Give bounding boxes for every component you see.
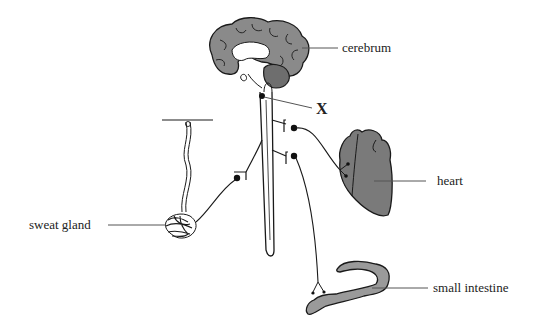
sweat-duct — [182, 122, 191, 213]
x-leader-line — [264, 97, 312, 108]
spinal-cord — [260, 92, 274, 256]
sweat-gland — [165, 214, 196, 238]
point-x-label: X — [316, 100, 328, 118]
heart-label: heart — [437, 173, 463, 189]
cerebrum-label: cerebrum — [342, 40, 391, 56]
sweat-gland-label: sweat gland — [29, 217, 91, 233]
cerebellum — [264, 65, 290, 88]
point-x-marker — [259, 93, 265, 99]
small-intestine-label: small intestine — [433, 280, 508, 296]
heart — [340, 130, 393, 216]
cerebrum — [210, 18, 309, 77]
